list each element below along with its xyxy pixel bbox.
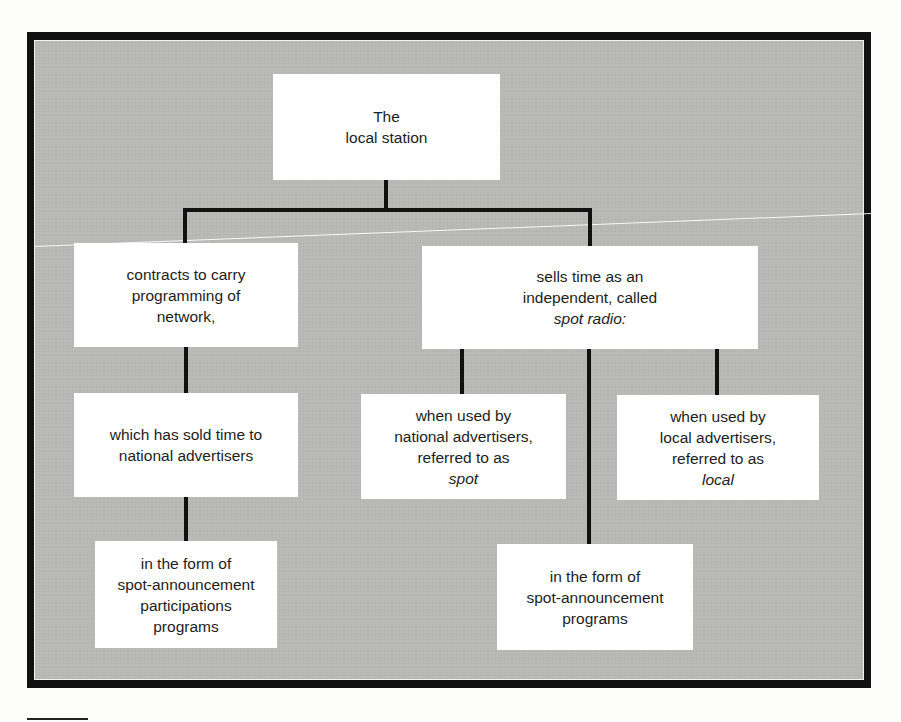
footnote-rule: [27, 718, 88, 720]
node-text-line: which has sold time to: [110, 424, 263, 445]
node-local-local: when used by local advertisers, referred…: [617, 395, 819, 500]
node-text-line: independent, called: [523, 287, 657, 308]
node-term-spot-radio: spot radio:: [523, 308, 657, 329]
node-text-line: referred to as: [394, 447, 533, 468]
connector-right-to-programs: [587, 349, 591, 545]
node-text-line: local advertisers,: [660, 427, 776, 448]
node-text-line: referred to as: [660, 448, 776, 469]
node-sold-to-national: which has sold time to national advertis…: [74, 393, 298, 497]
node-contracts-network: contracts to carry programming of networ…: [74, 243, 298, 347]
connector-right-to-national: [460, 349, 464, 395]
node-text-line: contracts to carry: [127, 264, 246, 285]
node-text-line: national advertisers: [110, 445, 263, 466]
node-text-line: participations: [117, 595, 254, 616]
connector-left-l2-l3: [184, 497, 188, 542]
node-text-line: spot-announcement: [117, 574, 254, 595]
node-text-line: network,: [127, 306, 246, 327]
node-text-line: spot-announcement: [526, 587, 663, 608]
node-text-line: in the form of: [117, 553, 254, 574]
node-text-line: programming of: [127, 285, 246, 306]
connector-right-drop: [588, 208, 592, 247]
node-term-local: local: [660, 469, 776, 490]
connector-right-to-local: [715, 349, 719, 396]
node-text-line: local station: [346, 127, 428, 148]
node-spot-announcement-programs: in the form of spot-announcement program…: [497, 544, 693, 650]
node-text-line: The: [346, 106, 428, 127]
node-national-spot: when used by national advertisers, refer…: [361, 394, 566, 499]
node-term-spot: spot: [394, 468, 533, 489]
connector-root-horizontal: [183, 208, 592, 212]
node-text-line: when used by: [394, 405, 533, 426]
connector-left-l1-l2: [184, 347, 188, 394]
node-participations-programs: in the form of spot-announcement partici…: [95, 541, 277, 648]
node-text-line: programs: [117, 616, 254, 637]
node-text-line: in the form of: [526, 566, 663, 587]
node-text-line: national advertisers,: [394, 426, 533, 447]
node-spot-radio: sells time as an independent, called spo…: [422, 246, 758, 349]
connector-left-drop: [183, 208, 187, 244]
node-text-line: programs: [526, 608, 663, 629]
node-text-line: when used by: [660, 406, 776, 427]
node-local-station: The local station: [273, 74, 500, 180]
node-text-line: sells time as an: [523, 266, 657, 287]
